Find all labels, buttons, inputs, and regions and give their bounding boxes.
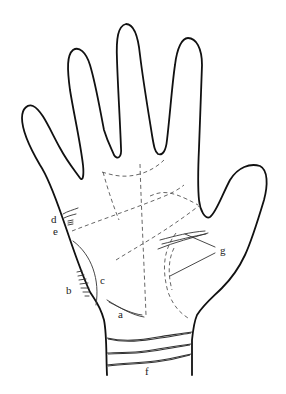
mark-d-arc xyxy=(63,208,78,214)
label-c: c xyxy=(100,274,105,286)
mark-g-crease-3 xyxy=(162,234,206,244)
hand-outline xyxy=(22,24,267,375)
mark-g-pointer-2 xyxy=(170,253,215,276)
mark-b-hatching xyxy=(77,271,89,296)
mark-e-hatching xyxy=(68,220,73,225)
life-line-outer xyxy=(164,233,188,318)
mark-c-arc xyxy=(73,241,97,305)
label-e: e xyxy=(53,225,58,237)
label-d: d xyxy=(51,213,57,225)
mark-d-arc-2 xyxy=(64,214,76,218)
wrist-line-3 xyxy=(107,354,191,365)
cross-line xyxy=(116,205,200,260)
label-f: f xyxy=(145,365,149,377)
head-line xyxy=(72,185,184,231)
heart-line xyxy=(102,160,164,176)
palm-diagram: a b c d e f g xyxy=(0,0,286,394)
label-b: b xyxy=(66,284,72,296)
mark-g-pointer-1 xyxy=(185,234,215,247)
fate-line xyxy=(140,164,146,315)
wrist-line-1 xyxy=(107,332,192,340)
life-line-inner xyxy=(169,248,174,290)
label-a: a xyxy=(118,308,123,320)
fate-line-left xyxy=(103,172,119,220)
label-g: g xyxy=(220,244,226,256)
